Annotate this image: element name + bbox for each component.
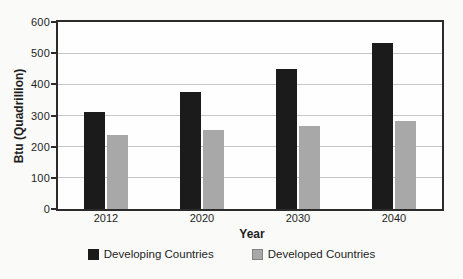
x-category-label-2030: 2030 — [268, 212, 328, 224]
y-tick-600 — [51, 21, 58, 23]
y-tick-label-200: 200 — [6, 140, 50, 154]
y-tick-400 — [51, 83, 58, 85]
y-tick-label-500: 500 — [6, 46, 50, 60]
y-tick-100 — [51, 177, 58, 179]
legend-label-developed-countries: Developed Countries — [268, 248, 375, 261]
bar-developing-countries-2012 — [84, 112, 105, 209]
y-tick-label-0: 0 — [6, 202, 50, 216]
y-tick-label-400: 400 — [6, 77, 50, 91]
bar-developed-countries-2030 — [299, 126, 320, 209]
y-tick-label-600: 600 — [6, 15, 50, 29]
bar-developing-countries-2040 — [372, 43, 393, 209]
y-tick-500 — [51, 52, 58, 54]
y-tick-label-100: 100 — [6, 171, 50, 185]
x-category-label-2040: 2040 — [364, 212, 424, 224]
legend-item-developed-countries: Developed Countries — [252, 248, 375, 261]
bars-layer — [58, 22, 442, 209]
legend-label-developing-countries: Developing Countries — [104, 248, 214, 261]
x-category-label-2020: 2020 — [172, 212, 232, 224]
energy-consumption-bar-chart: Btu (Quadrillion) 0100200300400500600 20… — [0, 0, 463, 279]
y-tick-300 — [51, 115, 58, 117]
legend-item-developing-countries: Developing Countries — [88, 248, 214, 261]
bar-developed-countries-2020 — [203, 130, 224, 209]
bar-developed-countries-2040 — [395, 121, 416, 209]
legend-swatch-developed-countries — [252, 249, 263, 260]
y-tick-0 — [51, 208, 58, 210]
bar-developing-countries-2020 — [180, 92, 201, 209]
x-axis-title: Year — [222, 227, 282, 241]
plot-area — [56, 20, 444, 211]
bar-developed-countries-2012 — [107, 135, 128, 209]
bar-developing-countries-2030 — [276, 69, 297, 209]
legend-swatch-developing-countries — [88, 249, 99, 260]
legend: Developing Countries Developed Countries — [0, 248, 463, 261]
x-category-label-2012: 2012 — [76, 212, 136, 224]
y-tick-200 — [51, 146, 58, 148]
y-tick-label-300: 300 — [6, 109, 50, 123]
